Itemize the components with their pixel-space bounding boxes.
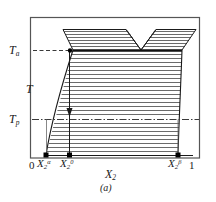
ta-base: T	[9, 43, 16, 57]
upper-band-right-edge	[182, 30, 196, 51]
axis-tick-label-x-alpha: X2α	[37, 158, 51, 171]
axis-tick-label-ta: Ta	[9, 44, 19, 58]
xnaught-sup: 0	[70, 158, 73, 165]
xalpha-base: X	[37, 157, 44, 169]
tp-sub: p	[16, 118, 20, 127]
axis-tick-label-tp: Tp	[9, 113, 19, 127]
marker-x-naught	[67, 153, 72, 158]
marker-ta-point	[68, 48, 72, 52]
axis-tick-label-x-naught: X20	[60, 158, 73, 171]
axis-tick-label-one: 1	[189, 160, 195, 171]
plot-frame	[31, 18, 200, 159]
x2-sub: 2	[112, 173, 116, 182]
axis-tick-label-zero: 0	[29, 160, 35, 171]
y-axis-label: T	[26, 83, 33, 95]
xbeta-sup: β	[178, 158, 181, 165]
xalpha-sup: α	[47, 158, 50, 165]
cooling-arrowhead	[67, 108, 73, 117]
upper-phase-band	[55, 28, 200, 50]
upper-band-left-edge	[63, 30, 73, 51]
figure-panel: Ta Tp T 0 X2α X20 X2β 1 X2 (a)	[0, 0, 216, 202]
figure-caption: (a)	[100, 183, 112, 193]
xnaught-base: X	[60, 157, 67, 169]
tp-base: T	[9, 112, 16, 126]
xbeta-base: X	[168, 157, 175, 169]
ta-sub: a	[16, 49, 20, 58]
axis-tick-label-x-beta: X2β	[168, 158, 181, 171]
x-axis-label: X2	[105, 168, 116, 182]
marker-x-beta	[176, 153, 181, 158]
two-phase-hatching	[40, 55, 200, 152]
marker-x-alpha	[44, 153, 49, 158]
